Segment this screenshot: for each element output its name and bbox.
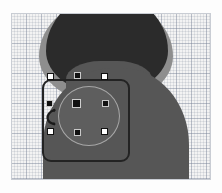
handle-top-center[interactable]: [74, 72, 81, 79]
handle-bottom-right[interactable]: [101, 128, 108, 135]
handle-middle-left[interactable]: [46, 100, 53, 107]
rotate-handle[interactable]: [44, 108, 58, 126]
handle-top-left[interactable]: [47, 73, 54, 80]
handle-middle-right[interactable]: [102, 100, 109, 107]
graphics-editor-screen: [0, 0, 222, 193]
handle-bottom-center[interactable]: [74, 129, 81, 136]
graph-paper-canvas[interactable]: [11, 13, 211, 180]
handle-bottom-left[interactable]: [47, 128, 54, 135]
handle-center[interactable]: [72, 99, 81, 108]
handle-top-right[interactable]: [101, 73, 108, 80]
